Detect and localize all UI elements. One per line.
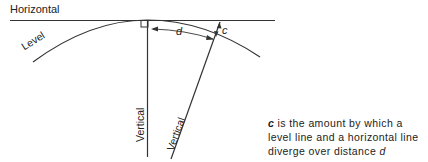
arrowhead-right-icon [206, 35, 214, 40]
caption-text: is the amount by which a level line and … [268, 117, 419, 157]
vertical-label: Vertical [134, 108, 146, 142]
horizontal-label: Horizontal [10, 3, 60, 15]
c-arrowhead-up-icon [217, 22, 222, 29]
caption: c is the amount by which a level line an… [268, 116, 428, 158]
caption-d-symbol: d [380, 145, 386, 157]
arrowhead-left-icon [151, 27, 158, 32]
distance-d-arc [153, 29, 213, 39]
distance-d-label: d [176, 25, 182, 37]
divergence-c-label: c [222, 24, 228, 36]
